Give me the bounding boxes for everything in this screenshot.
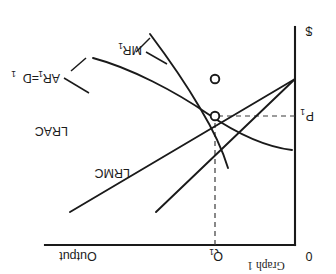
long-run-average-cost-curve (93, 58, 292, 150)
economics-graph-svg: 0 Output $ Q 1 P 1 MR 1 AR (0, 0, 336, 274)
demand-label-ar: AR (43, 71, 60, 85)
equilibrium-marker-upper (211, 75, 220, 84)
demand-label-d-subscript: 1 (11, 69, 16, 79)
demand-label-equals-d: =D (23, 71, 39, 85)
figure-caption: Graph 1 (247, 259, 285, 272)
rotated-graph-figure: 0 Output $ Q 1 P 1 MR 1 AR (0, 0, 336, 274)
lrac-leader-line (71, 58, 86, 71)
quantity-tick-subscript: 1 (209, 247, 214, 257)
long-run-marginal-cost-label: LRMC (95, 166, 130, 180)
equilibrium-marker-lower (211, 112, 220, 121)
x-axis-label: Output (59, 249, 97, 263)
quantity-tick-label: Q 1 (209, 247, 223, 263)
marginal-revenue-label-subscript: 1 (118, 41, 123, 51)
long-run-average-cost-label: LRAC (35, 124, 68, 138)
price-tick-subscript: 1 (300, 107, 305, 117)
demand-leader-line (64, 78, 89, 93)
screenshot-root: 0 Output $ Q 1 P 1 MR 1 AR (0, 0, 336, 274)
demand-curve-label: AR 1 =D 1 (11, 69, 60, 85)
demand-curve-ar-d (70, 79, 295, 212)
price-tick-label: P 1 (300, 107, 314, 123)
quantity-tick-main: Q (213, 249, 223, 263)
price-tick-main: P (306, 109, 314, 123)
marginal-revenue-curve (156, 79, 295, 212)
marginal-revenue-label: MR 1 (118, 41, 142, 57)
origin-label: 0 (305, 249, 312, 263)
y-axis-label: $ (305, 24, 312, 38)
marginal-revenue-label-main: MR (123, 43, 142, 57)
